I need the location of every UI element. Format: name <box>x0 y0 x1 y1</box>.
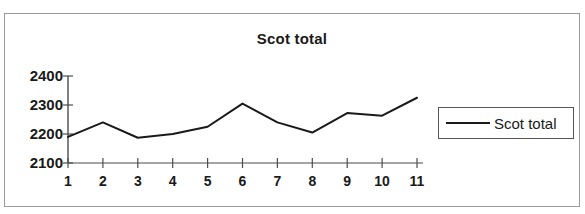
x-tick-label: 3 <box>123 174 153 188</box>
legend-label-scot-total: Scot total <box>494 115 557 132</box>
x-tick-label: 7 <box>262 174 292 188</box>
chart-legend: Scot total <box>438 107 574 139</box>
x-tick-label: 2 <box>88 174 118 188</box>
x-tick-label: 11 <box>402 174 432 188</box>
x-tick-label: 4 <box>158 174 188 188</box>
x-tick-label: 1 <box>53 174 83 188</box>
x-tick-label: 5 <box>193 174 223 188</box>
x-tick-label: 8 <box>297 174 327 188</box>
x-tick-label: 10 <box>367 174 397 188</box>
x-tick-label: 6 <box>228 174 258 188</box>
x-tick-label: 9 <box>332 174 362 188</box>
legend-line-swatch <box>446 122 490 124</box>
